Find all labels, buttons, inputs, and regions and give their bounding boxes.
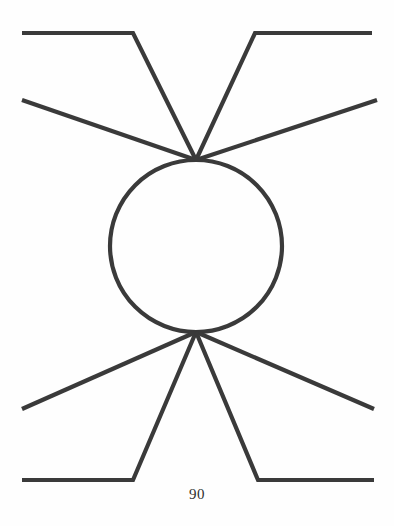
page-number-caption: 90 <box>0 486 394 503</box>
upper-left-outer-leg-path <box>22 33 196 160</box>
diagram-strokes <box>22 33 377 480</box>
upper-right-inner-leg-path <box>196 100 377 160</box>
lower-left-outer-leg-path <box>22 332 196 480</box>
upper-right-outer-leg-path <box>196 33 372 160</box>
figure-page: 90 <box>0 0 394 526</box>
loop-circle <box>110 160 282 332</box>
lower-right-outer-leg-path <box>196 332 374 480</box>
feynman-loop-diagram <box>0 0 394 526</box>
